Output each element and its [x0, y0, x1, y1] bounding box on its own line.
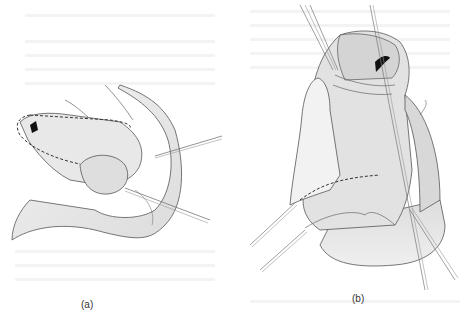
- panel-a-drawing: [12, 85, 222, 240]
- illustration-canvas: [0, 0, 466, 320]
- surgical-illustration-figure: (a) (b): [0, 0, 466, 320]
- panel-b-drawing: [250, 5, 458, 290]
- panel-label-b: (b): [352, 293, 364, 304]
- panel-label-a: (a): [81, 299, 93, 310]
